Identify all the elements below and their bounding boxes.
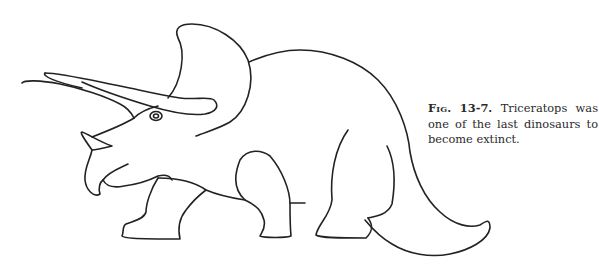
caption-label: Fig. bbox=[428, 101, 451, 115]
upper-horn bbox=[45, 73, 217, 115]
front-leg-left bbox=[122, 178, 206, 239]
chest-line bbox=[158, 178, 245, 200]
beak-outline bbox=[85, 150, 103, 195]
frill-outline bbox=[168, 24, 251, 136]
eye-inner bbox=[154, 114, 159, 118]
cheek-line bbox=[103, 164, 128, 180]
caption-number: 13-7. bbox=[460, 101, 492, 115]
caption-text: Triceratops was one of the last dinosaur… bbox=[428, 101, 598, 146]
back-outline bbox=[249, 50, 490, 256]
figure: Fig. 13-7. Triceratops was one of the la… bbox=[0, 0, 599, 277]
mouth-line bbox=[103, 175, 172, 187]
hind-leg-far bbox=[316, 130, 372, 238]
far-leg-back bbox=[368, 146, 394, 218]
snout-top bbox=[92, 118, 134, 137]
hind-leg-near bbox=[236, 151, 291, 237]
eye-outer bbox=[150, 112, 162, 121]
figure-caption: Fig. 13-7. Triceratops was one of the la… bbox=[428, 101, 598, 148]
